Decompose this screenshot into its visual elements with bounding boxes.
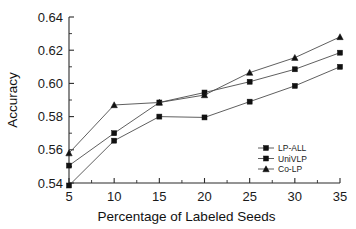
legend-marker-2 — [264, 156, 269, 161]
x-tick-label: 25 — [242, 189, 256, 204]
x-tick-label: 20 — [197, 189, 211, 204]
legend-label-1: LP-ALL — [278, 143, 307, 153]
x-tick-label: 30 — [288, 189, 302, 204]
y-tick-label: 0.62 — [38, 43, 63, 58]
x-axis-title: Percentage of Labeled Seeds — [98, 209, 276, 224]
data-point — [67, 183, 72, 188]
data-point — [247, 79, 252, 84]
y-tick-label: 0.64 — [38, 10, 63, 25]
y-tick-label: 0.60 — [38, 76, 63, 91]
data-point — [292, 83, 297, 88]
data-point — [67, 163, 72, 168]
data-point — [112, 131, 117, 136]
data-point — [157, 114, 162, 119]
accuracy-vs-labeled-seeds-chart: 0.540.560.580.600.620.645101520253035Per… — [0, 0, 356, 229]
y-tick-label: 0.58 — [38, 109, 63, 124]
data-point — [292, 67, 297, 72]
data-point — [112, 138, 117, 143]
y-tick-label: 0.56 — [38, 142, 63, 157]
data-point — [338, 64, 343, 69]
x-tick-label: 15 — [152, 189, 166, 204]
chart-canvas: 0.540.560.580.600.620.645101520253035Per… — [0, 0, 356, 229]
legend: LP-ALLUniVLPCo-LP — [258, 143, 307, 174]
legend-marker-1 — [264, 146, 269, 151]
y-axis-title: Accuracy — [5, 72, 20, 128]
data-point — [246, 69, 252, 75]
legend-label-3: Co-LP — [278, 164, 302, 174]
x-tick-label: 5 — [65, 189, 72, 204]
data-point — [202, 115, 207, 120]
x-tick-label: 35 — [333, 189, 347, 204]
data-point — [247, 99, 252, 104]
legend-label-2: UniVLP — [278, 154, 307, 164]
y-tick-label: 0.54 — [38, 176, 63, 191]
data-point — [292, 54, 298, 60]
data-point — [338, 50, 343, 55]
x-tick-label: 10 — [107, 189, 121, 204]
data-point — [337, 34, 343, 40]
